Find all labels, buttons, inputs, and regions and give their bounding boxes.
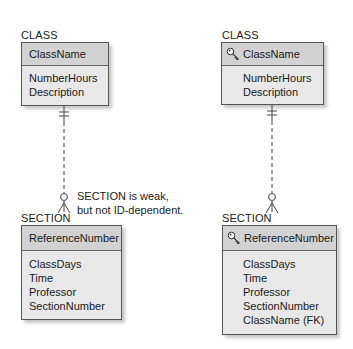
entity-attributes: ClassDays Time Professor SectionNumber C… bbox=[223, 251, 336, 327]
key-icon bbox=[226, 47, 240, 61]
right-section-label: SECTION bbox=[222, 212, 272, 224]
attribute: NumberHours bbox=[243, 71, 323, 85]
identifier-text: ReferenceNumber bbox=[29, 232, 119, 244]
optional-circle bbox=[61, 194, 68, 201]
identifier-text: ClassName bbox=[243, 48, 300, 60]
attribute: SectionNumber bbox=[243, 299, 336, 313]
key-icon bbox=[227, 231, 241, 245]
right-class-label: CLASS bbox=[222, 29, 259, 41]
attribute: ClassDays bbox=[243, 257, 336, 271]
identifier-text: ClassName bbox=[29, 48, 86, 60]
attribute: Professor bbox=[243, 285, 336, 299]
entity-identifier: ReferenceNumber bbox=[22, 226, 121, 251]
attribute: Description bbox=[243, 85, 323, 99]
entity-attributes: NumberHours Description bbox=[22, 66, 108, 99]
attribute: Description bbox=[29, 85, 108, 99]
attribute: ClassName (FK) bbox=[243, 313, 336, 327]
left-relationship bbox=[58, 105, 70, 213]
right-relationship bbox=[266, 104, 278, 213]
left-section-label: SECTION bbox=[21, 212, 71, 224]
right-section-entity[interactable]: ReferenceNumber ClassDays Time Professor… bbox=[222, 225, 337, 335]
attribute: ClassDays bbox=[29, 257, 121, 271]
weak-entity-note: SECTION is weak, but not ID-dependent. bbox=[77, 189, 183, 217]
entity-attributes: NumberHours Description bbox=[222, 66, 323, 99]
entity-attributes: ClassDays Time Professor SectionNumber bbox=[22, 251, 121, 313]
attribute: Time bbox=[243, 271, 336, 285]
identifier-text: ReferenceNumber bbox=[244, 232, 334, 244]
entity-identifier: ReferenceNumber bbox=[223, 226, 336, 251]
attribute: Professor bbox=[29, 285, 121, 299]
note-line: SECTION is weak, bbox=[77, 189, 183, 203]
entity-identifier: ClassName bbox=[22, 43, 108, 66]
left-section-entity[interactable]: ReferenceNumber ClassDays Time Professor… bbox=[21, 225, 122, 320]
attribute: SectionNumber bbox=[29, 299, 121, 313]
attribute: Time bbox=[29, 271, 121, 285]
left-class-entity[interactable]: ClassName NumberHours Description bbox=[21, 42, 109, 106]
left-class-label: CLASS bbox=[21, 29, 58, 41]
note-line: but not ID-dependent. bbox=[77, 203, 183, 217]
attribute: NumberHours bbox=[29, 71, 108, 85]
entity-identifier: ClassName bbox=[222, 43, 323, 66]
right-class-entity[interactable]: ClassName NumberHours Description bbox=[221, 42, 324, 105]
